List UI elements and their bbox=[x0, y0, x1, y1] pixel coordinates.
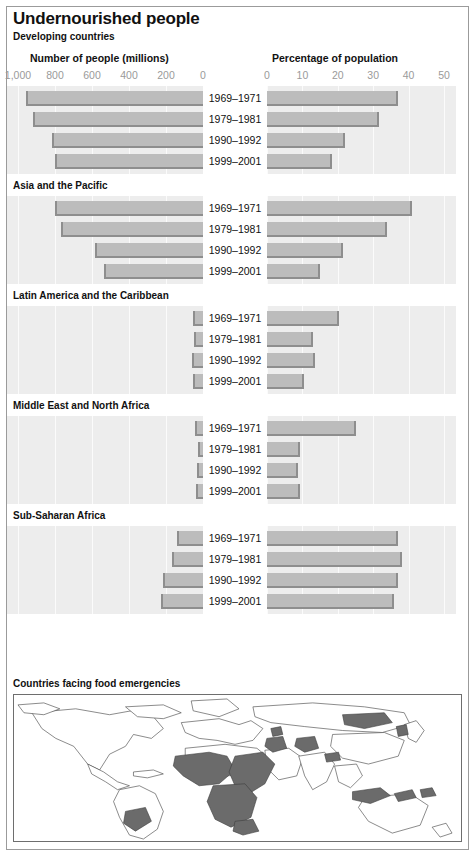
bar-millions bbox=[163, 573, 203, 588]
right-axis-tick: 40 bbox=[403, 69, 415, 81]
bar-percent bbox=[267, 594, 394, 609]
chart-group: 1969–19711979–19811990–19921999–2001 bbox=[7, 86, 456, 174]
page-subtitle: Developing countries bbox=[13, 31, 115, 42]
bar-percent bbox=[267, 442, 300, 457]
bar-percent bbox=[267, 374, 304, 389]
chart-group: 1969–19711979–19811990–19921999–2001 bbox=[7, 526, 456, 614]
row-period-label: 1990–1992 bbox=[203, 570, 267, 591]
chart-row: 1969–1971 bbox=[7, 198, 456, 219]
row-period-label: 1999–2001 bbox=[203, 151, 267, 172]
row-period-label: 1979–1981 bbox=[203, 549, 267, 570]
chart-row: 1990–1992 bbox=[7, 350, 456, 371]
bar-millions bbox=[194, 332, 203, 347]
row-period-label: 1969–1971 bbox=[203, 418, 267, 439]
map-country bbox=[335, 764, 363, 788]
chart-row: 1969–1971 bbox=[7, 528, 456, 549]
row-period-label: 1999–2001 bbox=[203, 481, 267, 502]
left-axis-tick: 400 bbox=[120, 69, 138, 81]
chart-row: 1999–2001 bbox=[7, 371, 456, 392]
bar-millions bbox=[195, 421, 203, 436]
left-axis-tick: 800 bbox=[46, 69, 64, 81]
bar-millions bbox=[95, 243, 203, 258]
map-country-highlighted bbox=[271, 727, 283, 737]
map-country bbox=[88, 764, 130, 790]
right-axis-title: Percentage of population bbox=[272, 52, 398, 64]
map-country bbox=[32, 709, 163, 770]
bar-millions bbox=[172, 552, 203, 567]
chart-row: 1999–2001 bbox=[7, 261, 456, 282]
map-country bbox=[432, 823, 452, 837]
bar-percent bbox=[267, 154, 332, 169]
group-label: Asia and the Pacific bbox=[7, 174, 456, 196]
page-title: Undernourished people bbox=[13, 9, 200, 29]
group-label-text: Asia and the Pacific bbox=[13, 180, 107, 191]
chart-row: 1969–1971 bbox=[7, 308, 456, 329]
group-label-text: Middle East and North Africa bbox=[13, 400, 149, 411]
bar-millions bbox=[55, 154, 203, 169]
bar-millions bbox=[26, 91, 203, 106]
chart-row: 1999–2001 bbox=[7, 481, 456, 502]
left-axis-tick: 0 bbox=[200, 69, 206, 81]
chart-row: 1979–1981 bbox=[7, 219, 456, 240]
row-period-label: 1999–2001 bbox=[203, 591, 267, 612]
row-period-label: 1969–1971 bbox=[203, 198, 267, 219]
chart-row: 1979–1981 bbox=[7, 549, 456, 570]
row-period-label: 1990–1992 bbox=[203, 240, 267, 261]
chart-row: 1979–1981 bbox=[7, 439, 456, 460]
bar-millions bbox=[192, 353, 203, 368]
chart-row: 1990–1992 bbox=[7, 570, 456, 591]
chart-groups: 1969–19711979–19811990–19921999–2001Asia… bbox=[7, 86, 456, 614]
chart-row: 1990–1992 bbox=[7, 460, 456, 481]
bar-percent bbox=[267, 573, 398, 588]
right-axis-tick: 10 bbox=[297, 69, 309, 81]
map-country-highlighted bbox=[295, 736, 319, 752]
left-axis-tick: 200 bbox=[157, 69, 175, 81]
map-country-highlighted bbox=[233, 819, 259, 835]
bar-millions bbox=[196, 484, 203, 499]
chart-group: 1969–19711979–19811990–19921999–2001 bbox=[7, 196, 456, 284]
map-country bbox=[133, 770, 163, 778]
bar-millions bbox=[61, 222, 203, 237]
group-label: Middle East and North Africa bbox=[7, 394, 456, 416]
left-axis-title: Number of people (millions) bbox=[30, 52, 169, 64]
group-label-text: Latin America and the Caribbean bbox=[13, 290, 169, 301]
right-axis-tick: 0 bbox=[264, 69, 270, 81]
right-axis-tick: 50 bbox=[438, 69, 450, 81]
group-label: Sub-Saharan Africa bbox=[7, 504, 456, 526]
row-period-label: 1979–1981 bbox=[203, 109, 267, 130]
row-period-label: 1999–2001 bbox=[203, 261, 267, 282]
group-label: Latin America and the Caribbean bbox=[7, 284, 456, 306]
chart-row: 1969–1971 bbox=[7, 418, 456, 439]
bar-percent bbox=[267, 531, 398, 546]
row-period-label: 1979–1981 bbox=[203, 439, 267, 460]
row-period-label: 1990–1992 bbox=[203, 130, 267, 151]
infographic-page: Undernourished people Developing countri… bbox=[0, 0, 475, 856]
bar-percent bbox=[267, 243, 343, 258]
bar-millions bbox=[104, 264, 203, 279]
chart-row: 1979–1981 bbox=[7, 329, 456, 350]
bar-percent bbox=[267, 552, 402, 567]
map-country bbox=[191, 699, 239, 717]
bar-millions bbox=[177, 531, 203, 546]
world-map-svg bbox=[14, 695, 461, 841]
right-axis-tick: 30 bbox=[367, 69, 379, 81]
bar-percent bbox=[267, 463, 298, 478]
bar-millions bbox=[33, 112, 203, 127]
map-country bbox=[331, 732, 405, 764]
bar-percent bbox=[267, 133, 345, 148]
bar-percent bbox=[267, 484, 300, 499]
row-period-label: 1990–1992 bbox=[203, 350, 267, 371]
bar-millions bbox=[161, 594, 203, 609]
map-country-highlighted bbox=[173, 752, 235, 786]
bar-millions bbox=[193, 374, 203, 389]
bar-millions bbox=[55, 201, 203, 216]
bar-percent bbox=[267, 421, 356, 436]
map-country-highlighted bbox=[396, 725, 408, 737]
row-period-label: 1969–1971 bbox=[203, 528, 267, 549]
world-map bbox=[13, 694, 462, 842]
map-caption: Countries facing food emergencies bbox=[13, 678, 180, 689]
row-period-label: 1969–1971 bbox=[203, 88, 267, 109]
row-period-label: 1999–2001 bbox=[203, 371, 267, 392]
bar-millions bbox=[52, 133, 203, 148]
bar-millions bbox=[193, 311, 203, 326]
